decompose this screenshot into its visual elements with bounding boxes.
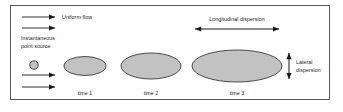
plume-time-1 [64, 57, 106, 76]
uniform-flow-arrow-group [22, 17, 55, 87]
plume-time-2 [121, 53, 181, 79]
time-3-label: time 3 [230, 90, 245, 96]
instantaneous-point-source-label: Instantaneous point source [21, 35, 55, 49]
lateral-dispersion-label: Lateral dispersion [296, 59, 321, 73]
plume-time-3 [192, 50, 282, 82]
lateral-dispersion-label-line1: Lateral [296, 59, 313, 65]
lateral-dispersion-label-line2: dispersion [296, 67, 321, 73]
time-2-label: time 2 [144, 90, 159, 96]
longitudinal-dispersion-label: Longitudinal dispersion [209, 16, 264, 22]
figure-container: Uniform flow Instantaneous point source … [0, 0, 343, 112]
time-1-label: time 1 [78, 90, 93, 96]
uniform-flow-label: Uniform flow [62, 14, 92, 20]
instantaneous-point-source-label-line1: Instantaneous [21, 35, 55, 41]
instantaneous-point-source-marker [30, 61, 38, 69]
dispersion-diagram: Uniform flow Instantaneous point source … [0, 0, 343, 112]
instantaneous-point-source-label-line2: point source [21, 43, 50, 49]
